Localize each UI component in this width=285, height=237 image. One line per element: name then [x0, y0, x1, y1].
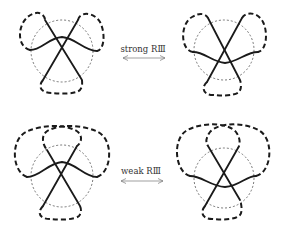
dashed-loop-large-right	[206, 124, 269, 176]
weak-r3-label: weak RⅢ	[121, 166, 161, 176]
diagram-strong-before	[20, 13, 104, 94]
strand-1	[47, 150, 80, 206]
diagram-weak-after	[177, 124, 269, 219]
strong-r3-label: strong RⅢ	[120, 44, 165, 54]
dotted-circle	[194, 148, 254, 208]
dashed-loop-large-right	[43, 126, 109, 177]
strand-2	[43, 146, 77, 206]
dashed-loop-top-left	[183, 14, 208, 52]
diagram-weak-before	[15, 126, 109, 220]
dotted-circle	[31, 20, 93, 82]
dashed-loop-bottom	[202, 200, 241, 220]
dashed-loop-bottom	[40, 206, 81, 220]
dashed-loop-large-left	[177, 124, 240, 176]
dashed-loop-top-left	[20, 13, 45, 50]
reidemeister-diagram: strong RⅢ weak RⅢ	[0, 0, 285, 237]
strand-1	[45, 20, 82, 80]
transition-strong: strong RⅢ	[120, 44, 165, 58]
wavy-strand	[190, 176, 256, 187]
strand-2	[43, 20, 78, 80]
dashed-loop-bottom	[204, 80, 241, 96]
transition-weak: weak RⅢ	[121, 166, 163, 181]
diagram-strong-after	[183, 13, 266, 95]
strand-2	[205, 148, 238, 206]
